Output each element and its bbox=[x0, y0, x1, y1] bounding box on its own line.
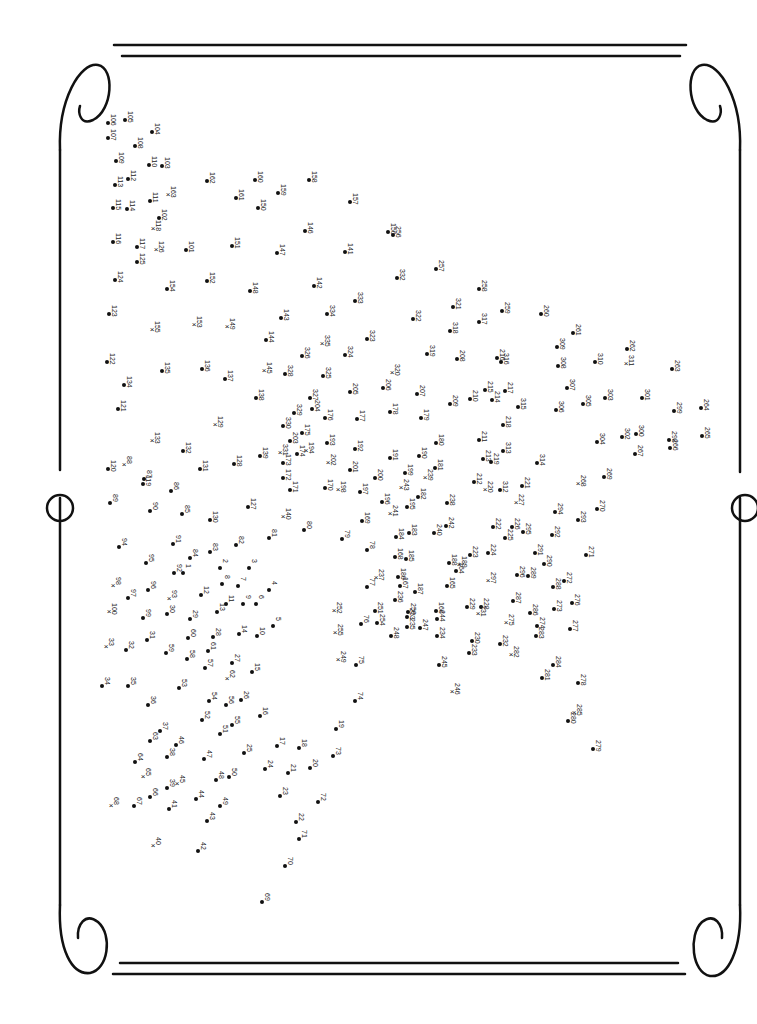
point-number: 92 bbox=[176, 564, 183, 572]
point-number: 28 bbox=[215, 628, 222, 636]
point-number: 193 bbox=[329, 434, 336, 446]
point-number: 74 bbox=[357, 692, 364, 700]
point-number: 34 bbox=[104, 677, 111, 685]
point-number: 260 bbox=[543, 305, 550, 317]
point-number: 35 bbox=[130, 677, 137, 685]
point-number: 310 bbox=[597, 353, 604, 365]
point-number: 238 bbox=[449, 494, 456, 506]
point-number: 54 bbox=[211, 692, 218, 700]
point-number: 181 bbox=[437, 459, 444, 471]
point-number: 61 bbox=[210, 642, 217, 650]
point-number: 10 bbox=[259, 627, 266, 635]
point-number: 327 bbox=[312, 389, 319, 401]
point-number: 232 bbox=[502, 635, 509, 647]
point-number: 208 bbox=[459, 350, 466, 362]
point-number: 227 bbox=[518, 494, 525, 506]
point-number: 81 bbox=[271, 529, 278, 537]
point-number: 149 bbox=[229, 318, 236, 330]
point-number: 127 bbox=[250, 498, 257, 510]
point-number: 334 bbox=[329, 305, 336, 317]
point-number: 46 bbox=[178, 736, 185, 744]
point-number: 245 bbox=[441, 656, 448, 668]
point-number: 231 bbox=[480, 605, 487, 617]
point-number: 293 bbox=[580, 511, 587, 523]
point-number: 302 bbox=[624, 428, 631, 440]
point-number: 111 bbox=[152, 192, 159, 203]
point-number: 138 bbox=[258, 389, 265, 401]
point-number: 161 bbox=[238, 189, 245, 201]
point-number: 135 bbox=[164, 362, 171, 374]
point-number: 52 bbox=[204, 711, 211, 719]
point-number: 68 bbox=[113, 797, 120, 805]
point-number: 323 bbox=[369, 330, 376, 342]
point-number: 225 bbox=[507, 529, 514, 541]
point-number: 180 bbox=[438, 434, 445, 446]
point-number: 18 bbox=[301, 739, 308, 747]
point-number: 53 bbox=[181, 679, 188, 687]
point-number: 25 bbox=[246, 744, 253, 752]
point-number: 202 bbox=[330, 454, 337, 466]
point-number: 119 bbox=[145, 475, 152, 486]
point-number: 165 bbox=[449, 577, 456, 589]
point-number: 1 bbox=[185, 564, 192, 568]
point-number: 220 bbox=[487, 481, 494, 493]
point-number: 240 bbox=[436, 524, 443, 536]
point-number: 130 bbox=[212, 511, 219, 523]
point-number: 154 bbox=[169, 280, 176, 292]
point-number: 47 bbox=[206, 750, 213, 758]
point-number: 43 bbox=[209, 812, 216, 820]
point-number: 317 bbox=[481, 313, 488, 325]
point-number: 73 bbox=[335, 747, 342, 755]
point-number: 40 bbox=[155, 837, 162, 845]
point-number: 178 bbox=[392, 403, 399, 415]
point-number: 287 bbox=[515, 592, 522, 604]
point-number: 136 bbox=[204, 360, 211, 372]
point-number: 32 bbox=[128, 641, 135, 649]
point-number: 106 bbox=[110, 114, 117, 126]
point-number: 30 bbox=[169, 605, 176, 613]
point-number: 271 bbox=[588, 546, 595, 558]
point-number: 95 bbox=[148, 554, 155, 562]
point-number: 146 bbox=[307, 222, 314, 234]
point-number: 3 bbox=[251, 559, 258, 563]
point-number: 292 bbox=[554, 526, 561, 538]
point-number: 143 bbox=[283, 309, 290, 321]
point-number: 15 bbox=[254, 663, 261, 671]
point-number: 140 bbox=[285, 508, 292, 520]
point-number: 129 bbox=[217, 416, 224, 428]
point-number: 184 bbox=[398, 528, 405, 540]
point-number: 168 bbox=[397, 548, 404, 560]
point-number: 255 bbox=[337, 624, 344, 636]
point-number: 306 bbox=[558, 401, 565, 413]
point-number: 88 bbox=[126, 456, 133, 464]
point-number: 5 bbox=[275, 617, 282, 621]
point-number: 170 bbox=[327, 479, 334, 491]
point-number: 249 bbox=[340, 651, 347, 663]
point-number: 265 bbox=[704, 427, 711, 439]
dot-marker-icon bbox=[254, 602, 258, 606]
point-number: 279 bbox=[595, 740, 602, 752]
point-number: 29 bbox=[192, 610, 199, 618]
point-number: 244 bbox=[439, 610, 446, 622]
point-number: 70 bbox=[287, 857, 294, 865]
point-number: 191 bbox=[392, 449, 399, 461]
point-number: 258 bbox=[481, 280, 488, 292]
point-number: 301 bbox=[644, 389, 651, 401]
point-number: 162 bbox=[209, 172, 216, 184]
point-number: 215 bbox=[487, 381, 494, 393]
point-number: 99 bbox=[145, 609, 152, 617]
point-number: 198 bbox=[340, 481, 347, 493]
point-number: 114 bbox=[129, 200, 136, 211]
point-number: 192 bbox=[357, 440, 364, 452]
point-number: 326 bbox=[304, 347, 311, 359]
dot-marker-icon bbox=[241, 602, 245, 606]
point-number: 322 bbox=[415, 310, 422, 322]
point-number: 117 bbox=[139, 238, 146, 249]
point-number: 294 bbox=[557, 503, 564, 515]
point-number: 247 bbox=[422, 619, 429, 631]
point-number: 60 bbox=[190, 629, 197, 637]
point-number: 335 bbox=[324, 335, 331, 347]
point-number: 290 bbox=[546, 555, 553, 567]
point-number: 248 bbox=[393, 627, 400, 639]
point-number: 201 bbox=[352, 461, 359, 473]
